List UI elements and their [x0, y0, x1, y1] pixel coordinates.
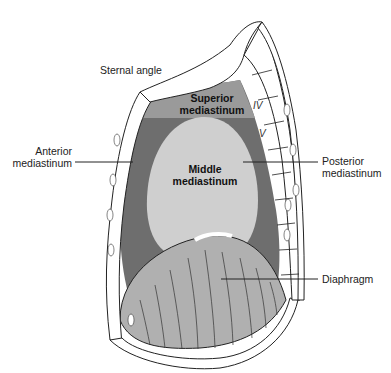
label-anterior-mediastinum: Anterior mediastinum: [8, 145, 72, 169]
label-diaphragm: Diaphragm: [322, 273, 373, 285]
label-superior-line1: Superior: [162, 92, 262, 104]
label-posterior-line1: Posterior: [322, 155, 382, 167]
label-anterior-line2: mediastinum: [8, 157, 72, 169]
label-sternal-angle: Sternal angle: [100, 64, 162, 76]
label-superior-line2: mediastinum: [162, 104, 262, 116]
label-anterior-line1: Anterior: [8, 145, 72, 157]
label-posterior-mediastinum: Posterior mediastinum: [322, 155, 382, 179]
label-vertebra-iv: IV: [253, 100, 262, 111]
label-middle-line1: Middle: [155, 163, 255, 175]
label-vertebra-v: V: [259, 128, 266, 139]
label-superior-mediastinum: Superior mediastinum: [162, 92, 262, 116]
label-middle-line2: mediastinum: [155, 175, 255, 187]
label-middle-mediastinum: Middle mediastinum: [155, 163, 255, 187]
label-posterior-line2: mediastinum: [322, 167, 382, 179]
